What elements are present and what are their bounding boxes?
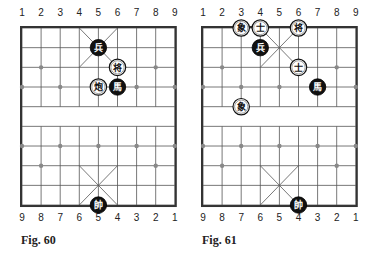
- file-number-top: 4: [258, 7, 264, 18]
- file-number-bottom: 4: [115, 212, 121, 223]
- file-number-top: 3: [238, 7, 244, 18]
- piece-black-horse[interactable]: 馬: [109, 79, 125, 95]
- piece-label: 帥: [294, 199, 303, 210]
- star-point-marker: [39, 65, 43, 69]
- piece-black-horse[interactable]: 馬: [309, 79, 325, 95]
- file-number-top: 4: [77, 7, 83, 18]
- piece-black-marshal[interactable]: 帥: [90, 197, 106, 213]
- file-number-bottom: 1: [172, 212, 178, 223]
- star-point-marker: [239, 144, 243, 148]
- file-number-bottom: 1: [353, 212, 359, 223]
- piece-label: 兵: [256, 42, 265, 53]
- star-point-marker: [20, 144, 24, 148]
- star-point-marker: [335, 163, 339, 167]
- piece-black-marshal[interactable]: 帥: [290, 197, 306, 213]
- piece-white-general[interactable]: 将: [109, 59, 125, 75]
- piece-white-elephant[interactable]: 象: [233, 98, 249, 114]
- piece-white-cannon[interactable]: 炮: [90, 79, 106, 95]
- piece-label: 将: [113, 62, 122, 73]
- star-point-marker: [134, 85, 138, 89]
- star-point-marker: [220, 65, 224, 69]
- file-number-top: 8: [153, 7, 159, 18]
- file-number-top: 5: [96, 7, 102, 18]
- piece-label: 象: [237, 22, 246, 33]
- figure-caption: Fig. 61: [202, 233, 237, 248]
- star-point-marker: [58, 85, 62, 89]
- file-number-bottom: 3: [134, 212, 140, 223]
- file-number-bottom: 2: [153, 212, 159, 223]
- star-point-marker: [315, 144, 319, 148]
- piece-black-soldier[interactable]: 兵: [252, 39, 268, 55]
- star-point-marker: [39, 163, 43, 167]
- file-number-top: 5: [277, 7, 283, 18]
- file-number-bottom: 3: [315, 212, 321, 223]
- board-fig-61: 123456789987654321象士将兵士馬象帥: [181, 0, 374, 230]
- file-number-top: 2: [38, 7, 44, 18]
- file-number-top: 8: [334, 7, 340, 18]
- file-number-bottom: 9: [200, 212, 206, 223]
- file-number-bottom: 9: [19, 212, 25, 223]
- piece-label: 兵: [94, 42, 103, 53]
- file-number-bottom: 4: [296, 212, 302, 223]
- star-point-marker: [134, 144, 138, 148]
- piece-white-general[interactable]: 将: [290, 20, 306, 36]
- star-point-marker: [96, 144, 100, 148]
- star-point-marker: [335, 65, 339, 69]
- piece-label: 馬: [112, 82, 122, 92]
- figure-caption: Fig. 60: [21, 233, 56, 248]
- file-number-top: 1: [19, 7, 25, 18]
- file-number-top: 3: [57, 7, 63, 18]
- piece-white-elephant[interactable]: 象: [233, 20, 249, 36]
- star-point-marker: [354, 85, 358, 89]
- star-point-marker: [173, 144, 177, 148]
- piece-white-advisor[interactable]: 士: [252, 20, 268, 36]
- file-number-bottom: 7: [238, 212, 244, 223]
- star-point-marker: [201, 144, 205, 148]
- star-point-marker: [154, 163, 158, 167]
- file-number-top: 7: [134, 7, 140, 18]
- star-point-marker: [220, 163, 224, 167]
- star-point-marker: [354, 144, 358, 148]
- file-number-top: 1: [200, 7, 206, 18]
- piece-black-soldier[interactable]: 兵: [90, 39, 106, 55]
- file-number-top: 6: [115, 7, 121, 18]
- star-point-marker: [58, 144, 62, 148]
- file-number-bottom: 7: [57, 212, 63, 223]
- board-fig-60: 123456789987654321兵将炮馬帥: [0, 0, 193, 230]
- file-number-bottom: 8: [38, 212, 44, 223]
- star-point-marker: [201, 85, 205, 89]
- star-point-marker: [173, 85, 177, 89]
- file-number-top: 9: [172, 7, 178, 18]
- file-number-top: 6: [296, 7, 302, 18]
- piece-label: 帥: [94, 199, 103, 210]
- file-number-bottom: 5: [277, 212, 283, 223]
- star-point-marker: [277, 85, 281, 89]
- file-number-top: 9: [353, 7, 359, 18]
- star-point-marker: [277, 144, 281, 148]
- star-point-marker: [154, 65, 158, 69]
- piece-white-advisor[interactable]: 士: [290, 59, 306, 75]
- file-number-bottom: 8: [219, 212, 225, 223]
- file-number-bottom: 5: [96, 212, 102, 223]
- xiangqi-board: 123456789987654321象士将兵士馬象帥: [181, 0, 374, 230]
- file-number-top: 7: [315, 7, 321, 18]
- piece-label: 士: [256, 22, 265, 33]
- star-point-marker: [20, 85, 24, 89]
- piece-label: 将: [294, 22, 303, 33]
- piece-label: 馬: [312, 82, 322, 92]
- file-number-bottom: 6: [77, 212, 83, 223]
- grid: [201, 27, 358, 206]
- file-number-bottom: 6: [258, 212, 264, 223]
- piece-label: 士: [294, 62, 303, 73]
- star-point-marker: [239, 85, 243, 89]
- piece-label: 炮: [94, 81, 103, 92]
- file-number-bottom: 2: [334, 212, 340, 223]
- file-number-top: 2: [219, 7, 225, 18]
- xiangqi-board: 123456789987654321兵将炮馬帥: [0, 0, 193, 230]
- piece-label: 象: [237, 101, 246, 112]
